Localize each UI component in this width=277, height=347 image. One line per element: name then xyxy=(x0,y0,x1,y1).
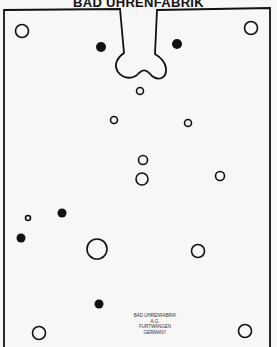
filled-hole xyxy=(96,42,106,52)
open-holes xyxy=(16,22,258,340)
open-hole xyxy=(33,327,46,340)
filled-hole xyxy=(17,234,26,243)
open-hole xyxy=(216,172,225,181)
open-hole xyxy=(137,88,144,95)
filled-hole xyxy=(95,300,104,309)
open-hole xyxy=(185,120,192,127)
filled-hole xyxy=(58,209,67,218)
filled-hole xyxy=(172,39,182,49)
open-hole xyxy=(87,239,107,259)
open-hole xyxy=(192,245,205,258)
maker-stamp: BAD UHRENFABRIK A.G. FURTWANGEN GERMANY xyxy=(130,313,180,335)
stamp-line-1: BAD UHRENFABRIK xyxy=(130,313,180,319)
open-hole xyxy=(16,25,29,38)
stamp-line-4: GERMANY xyxy=(130,330,180,336)
open-hole xyxy=(111,117,118,124)
open-hole xyxy=(26,216,31,221)
open-hole xyxy=(239,325,252,338)
open-hole xyxy=(245,22,258,35)
open-hole xyxy=(139,156,148,165)
clock-plate-diagram xyxy=(0,0,277,347)
open-hole xyxy=(136,173,148,185)
